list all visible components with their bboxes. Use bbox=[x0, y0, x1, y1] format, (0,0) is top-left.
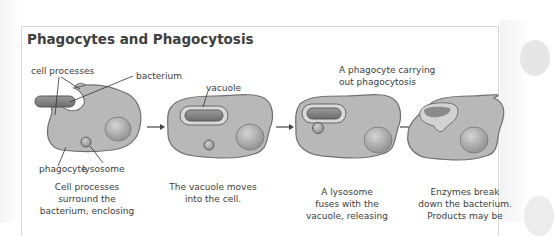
label-phagocyte: phagocyte bbox=[39, 164, 87, 175]
bacterium-icon bbox=[185, 110, 223, 121]
nucleus-icon bbox=[236, 124, 264, 150]
nucleus-icon bbox=[460, 127, 488, 153]
figure-subtitle: A phagocyte carrying out phagocytosis bbox=[339, 64, 435, 88]
lysosome-icon bbox=[313, 123, 324, 134]
step4-caption: Enzymes break down the bacterium. Produc… bbox=[410, 186, 520, 222]
step4-phagocyte bbox=[408, 95, 504, 160]
lysosome-icon bbox=[204, 140, 214, 150]
nucleus-icon bbox=[105, 117, 131, 141]
arrow-right-icon bbox=[147, 124, 165, 130]
step1-phagocyte bbox=[35, 83, 141, 151]
arrow-right-icon bbox=[276, 124, 294, 130]
bacterium-icon bbox=[307, 108, 341, 119]
nucleus-icon bbox=[364, 127, 392, 153]
subtitle-line-1: A phagocyte carrying bbox=[339, 64, 435, 76]
step1-caption: Cell processes surround the bacterium, e… bbox=[32, 181, 142, 217]
subtitle-line-2: out phagocytosis bbox=[339, 76, 435, 88]
label-vacuole: vacuole bbox=[206, 83, 241, 94]
lysosome-icon bbox=[81, 137, 91, 147]
bacterium-icon bbox=[35, 96, 75, 107]
step2-phagocyte bbox=[168, 95, 273, 158]
step2-caption: The vacuole moves into the cell. bbox=[163, 181, 263, 205]
label-bacterium: bacterium bbox=[136, 71, 182, 82]
label-cell-processes: cell processes bbox=[31, 66, 94, 77]
step3-caption: A lysosome fuses with the vacuole, relea… bbox=[297, 186, 397, 222]
label-lysosome: lysosome bbox=[82, 164, 125, 175]
step3-phagocyte bbox=[296, 95, 401, 158]
